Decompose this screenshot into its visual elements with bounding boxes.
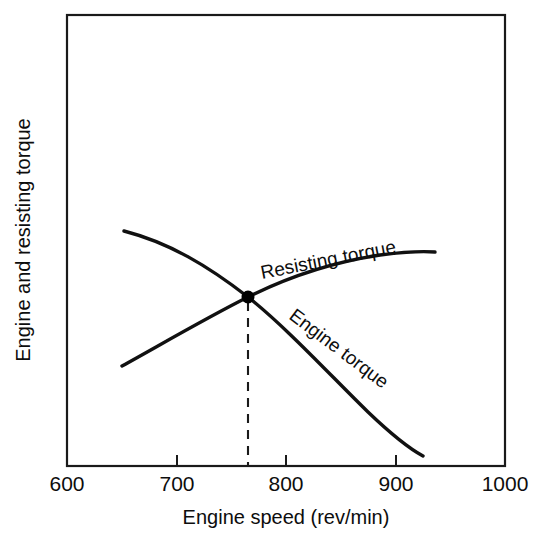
- y-axis-title: Engine and resisting torque: [12, 118, 34, 362]
- x-tick-label-1000: 1000: [482, 472, 529, 495]
- x-axis-title: Engine speed (rev/min): [183, 506, 390, 528]
- x-tick-label-800: 800: [268, 472, 303, 495]
- x-tick-label-700: 700: [159, 472, 194, 495]
- x-tick-label-600: 600: [49, 472, 84, 495]
- x-axis-tick-labels: 600 700 800 900 1000: [49, 472, 528, 495]
- operating-point-marker: [242, 291, 255, 304]
- x-tick-label-900: 900: [378, 472, 413, 495]
- chart-figure: 600 700 800 900 1000 Engine speed (rev/m…: [0, 0, 542, 537]
- plot-frame: [67, 15, 505, 466]
- torque-intersection-chart: 600 700 800 900 1000 Engine speed (rev/m…: [0, 0, 542, 537]
